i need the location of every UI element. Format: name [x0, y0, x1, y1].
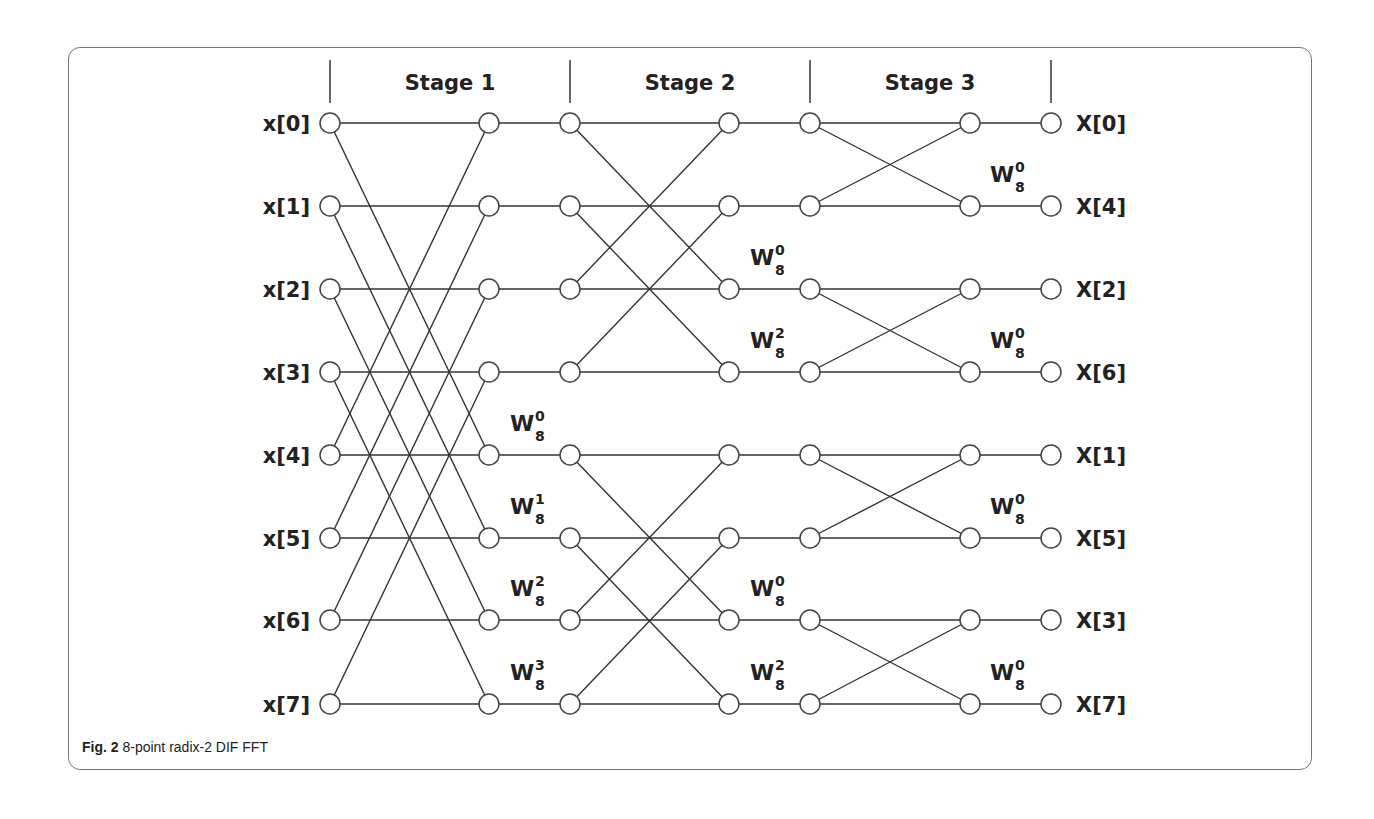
node: [719, 362, 739, 382]
input-label: x[0]: [263, 112, 310, 136]
node: [960, 694, 980, 714]
node: [560, 694, 580, 714]
svg-text:8: 8: [535, 593, 545, 609]
node: [719, 610, 739, 630]
svg-text:0: 0: [775, 573, 785, 589]
node: [1041, 694, 1061, 714]
stage-title: Stage 2: [645, 71, 736, 95]
twiddle-factor: W38: [510, 657, 545, 693]
node: [960, 445, 980, 465]
svg-text:0: 0: [775, 242, 785, 258]
svg-text:W: W: [750, 328, 774, 353]
output-label: X[7]: [1076, 693, 1126, 717]
twiddle-factor: W28: [750, 657, 785, 693]
node: [479, 196, 499, 216]
svg-text:W: W: [510, 494, 534, 519]
node: [960, 196, 980, 216]
svg-text:8: 8: [1015, 179, 1025, 195]
input-label: x[4]: [263, 444, 310, 468]
output-label: X[6]: [1076, 361, 1126, 385]
svg-text:8: 8: [775, 677, 785, 693]
svg-text:2: 2: [535, 573, 545, 589]
svg-text:8: 8: [535, 511, 545, 527]
node: [479, 279, 499, 299]
input-label: x[3]: [263, 361, 310, 385]
svg-text:W: W: [510, 576, 534, 601]
node: [320, 362, 340, 382]
svg-text:W: W: [750, 660, 774, 685]
node: [800, 113, 820, 133]
butterfly-edges: [330, 123, 1051, 704]
caption-label: Fig. 2: [82, 739, 119, 755]
svg-text:0: 0: [1015, 491, 1025, 507]
caption-text: 8-point radix-2 DIF FFT: [119, 739, 268, 755]
svg-text:8: 8: [1015, 677, 1025, 693]
node: [320, 610, 340, 630]
input-label: x[1]: [263, 195, 310, 219]
node: [719, 445, 739, 465]
node: [800, 610, 820, 630]
node: [800, 694, 820, 714]
node: [719, 528, 739, 548]
node: [800, 362, 820, 382]
node: [1041, 362, 1061, 382]
stage-title: Stage 3: [885, 71, 976, 95]
output-label: X[1]: [1076, 444, 1126, 468]
twiddle-factor: W08: [750, 242, 785, 278]
twiddle-factor: W08: [750, 573, 785, 609]
node: [1041, 196, 1061, 216]
input-label: x[5]: [263, 527, 310, 551]
node: [479, 445, 499, 465]
svg-text:W: W: [990, 660, 1014, 685]
node: [479, 362, 499, 382]
twiddle-factor: W08: [990, 657, 1025, 693]
svg-text:8: 8: [1015, 345, 1025, 361]
node: [320, 113, 340, 133]
twiddle-factor: W18: [510, 491, 545, 527]
svg-text:0: 0: [1015, 325, 1025, 341]
node: [719, 113, 739, 133]
node: [960, 610, 980, 630]
stage-title: Stage 1: [405, 71, 496, 95]
svg-text:W: W: [750, 576, 774, 601]
svg-text:W: W: [510, 411, 534, 436]
node: [960, 362, 980, 382]
svg-text:8: 8: [1015, 511, 1025, 527]
input-label: x[7]: [263, 693, 310, 717]
node: [800, 528, 820, 548]
node: [800, 279, 820, 299]
node: [560, 610, 580, 630]
node: [1041, 279, 1061, 299]
svg-text:0: 0: [535, 408, 545, 424]
svg-text:8: 8: [535, 677, 545, 693]
input-label: x[2]: [263, 278, 310, 302]
node: [800, 445, 820, 465]
svg-text:3: 3: [535, 657, 545, 673]
node: [960, 113, 980, 133]
output-label: X[5]: [1076, 527, 1126, 551]
node: [960, 279, 980, 299]
node: [479, 528, 499, 548]
butterfly-diagram: Stage 1Stage 2Stage 3x[0]x[1]x[2]x[3]x[4…: [0, 0, 1374, 819]
output-label: X[4]: [1076, 195, 1126, 219]
node: [719, 196, 739, 216]
svg-text:8: 8: [775, 345, 785, 361]
twiddle-factor: W08: [990, 159, 1025, 195]
svg-text:2: 2: [775, 657, 785, 673]
node: [479, 113, 499, 133]
node: [960, 528, 980, 548]
node: [560, 113, 580, 133]
node: [719, 694, 739, 714]
svg-text:8: 8: [775, 262, 785, 278]
butterfly-nodes: [320, 113, 1061, 714]
node: [800, 196, 820, 216]
output-label: X[0]: [1076, 112, 1126, 136]
twiddle-factor: W28: [750, 325, 785, 361]
node: [560, 528, 580, 548]
node: [719, 279, 739, 299]
svg-text:0: 0: [1015, 159, 1025, 175]
svg-text:W: W: [990, 494, 1014, 519]
svg-text:1: 1: [535, 491, 545, 507]
svg-text:2: 2: [775, 325, 785, 341]
node: [479, 610, 499, 630]
